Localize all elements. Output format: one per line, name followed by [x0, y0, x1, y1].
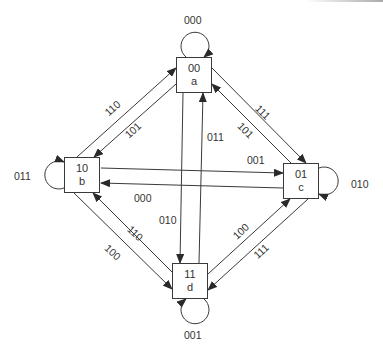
label-loop-c: 010 [351, 178, 369, 190]
label-loop-d: 001 [184, 329, 202, 341]
state-b-code: 10 [76, 162, 88, 175]
edge-d-to-a [199, 93, 203, 263]
edge-b-to-a [77, 68, 176, 157]
state-a-name: a [191, 75, 197, 88]
label-loop-a: 000 [184, 14, 202, 26]
edge-b-to-c [101, 168, 283, 173]
label-b-to-c: 001 [247, 154, 265, 166]
label-c-to-b: 000 [134, 192, 152, 204]
state-d-code: 11 [184, 268, 195, 281]
label-d-to-a: 011 [207, 131, 224, 143]
state-a-code: 00 [188, 62, 200, 75]
label-a-to-d: 010 [159, 214, 177, 226]
state-a: 00 a [176, 57, 212, 93]
edge-b-to-d [74, 193, 172, 289]
state-d: 11 d [172, 263, 208, 299]
edge-a-to-d [180, 93, 183, 263]
label-loop-b: 011 [14, 170, 31, 182]
edge-c-to-b [101, 183, 283, 188]
state-b-name: b [79, 175, 85, 188]
edge-d-to-c [208, 199, 290, 274]
state-c-name: c [298, 181, 304, 194]
self-loop-d [181, 299, 209, 324]
state-d-name: d [187, 281, 193, 294]
state-b: 10 b [64, 157, 100, 193]
state-c: 01 c [283, 163, 319, 199]
state-c-code: 01 [295, 168, 307, 181]
state-diagram: 00 a 10 b 01 c 11 d 000 011 010 001 110 … [0, 0, 383, 356]
diagram-edges [0, 0, 383, 356]
self-loop-c [319, 167, 338, 195]
self-loop-a [181, 32, 209, 57]
self-loop-b [45, 161, 64, 189]
edge-c-to-a [212, 84, 291, 163]
